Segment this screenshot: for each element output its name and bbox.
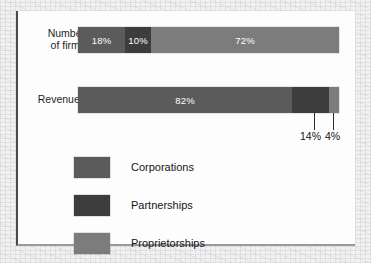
bar-segment-value-firms-corporations: 18% (92, 35, 112, 46)
chart-legend: Corporations Partnerships Proprietorship… (74, 154, 205, 263)
legend-swatch-proprietorships (74, 233, 110, 254)
bar-segment-revenues-partnerships[interactable]: 14% (292, 87, 329, 113)
callout-label-4pct: 4% (325, 130, 340, 142)
callout-leader-line-4pct (333, 113, 334, 130)
bar-segment-firms-proprietorships[interactable]: 72% (151, 27, 339, 53)
legend-label-partnerships: Partnerships (131, 199, 193, 211)
stacked-bar-chart: Number of firms 18% 10% 72% Revenues 82% (18, 11, 355, 244)
bar-row-revenues: Revenues 82% 14% 4% 14% 4% (18, 87, 355, 113)
callout-label-14pct: 14% (300, 130, 321, 142)
legend-item-proprietorships[interactable]: Proprietorships (74, 230, 205, 256)
bar-segment-firms-corporations[interactable]: 18% (78, 27, 125, 53)
bar-row-number-of-firms: Number of firms 18% 10% 72% (18, 27, 355, 53)
bar-segment-revenues-corporations[interactable]: 82% (78, 87, 292, 113)
legend-swatch-partnerships (74, 195, 110, 216)
figure-panel: Number of firms 18% 10% 72% Revenues 82% (16, 11, 355, 246)
bar-number-of-firms: 18% 10% 72% (78, 27, 339, 53)
bar-segment-revenues-proprietorships[interactable]: 4% (329, 87, 339, 113)
legend-item-partnerships[interactable]: Partnerships (74, 192, 205, 218)
bar-segment-value-firms-proprietorships: 72% (235, 35, 255, 46)
bar-segment-value-revenues-corporations: 82% (175, 95, 195, 106)
legend-label-proprietorships: Proprietorships (131, 237, 205, 249)
legend-label-corporations: Corporations (131, 161, 194, 173)
callout-leader-line-14pct (314, 113, 315, 130)
legend-item-corporations[interactable]: Corporations (74, 154, 205, 180)
bar-segment-value-firms-partnerships: 10% (128, 35, 148, 46)
bar-revenues: 82% 14% 4% (78, 87, 339, 113)
bar-segment-firms-partnerships[interactable]: 10% (125, 27, 151, 53)
legend-swatch-corporations (74, 157, 110, 178)
